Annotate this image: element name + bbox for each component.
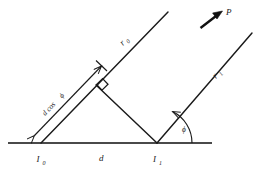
label-vector-p: P [225, 7, 232, 17]
label-source-I1-text: I [152, 154, 157, 164]
label-source-I1: I 1 [152, 154, 162, 166]
label-source-I0-text: I [36, 154, 41, 164]
label-ray-r0-subscript: 0 [125, 38, 131, 44]
label-source-I0: I 0 [36, 154, 46, 166]
physics-diagram-figure: I 0 I 1 d r 0 r 1 d cos ϕ ϕ P [0, 0, 264, 172]
label-source-I0-subscript: 0 [43, 160, 46, 166]
ray-r1-line [157, 33, 252, 143]
label-source-I1-subscript: 1 [159, 160, 162, 166]
label-path-difference: d cos ϕ [40, 91, 66, 118]
label-separation-d: d [99, 153, 104, 163]
ray-r0-line [41, 12, 168, 143]
vector-p-arrow [201, 11, 223, 28]
diagram-canvas: I 0 I 1 d r 0 r 1 d cos ϕ ϕ P [0, 0, 264, 172]
label-ray-r1-subscript: 1 [218, 71, 225, 77]
label-path-difference-symbol: ϕ [57, 91, 66, 100]
path-difference-arrow [35, 66, 102, 136]
perpendicular-line [96, 85, 157, 143]
label-ray-r0: r 0 [117, 34, 131, 48]
label-angle-phi: ϕ [182, 125, 186, 134]
